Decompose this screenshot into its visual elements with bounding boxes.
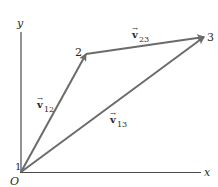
point-1-label: 1 — [15, 161, 21, 172]
vector-subscript: 12 — [44, 105, 54, 114]
vector-label-v13: → v 13 — [109, 110, 127, 129]
point-3-label: 3 — [207, 31, 214, 44]
vector-symbol: v — [109, 114, 117, 125]
vector-symbol: v — [131, 29, 139, 40]
vector-label-v23: → v 23 — [131, 25, 149, 44]
vector-diagram: y x O 1 2 3 → v 12 → v 23 → v 13 — [0, 0, 218, 187]
vector-subscript: 13 — [117, 120, 127, 129]
y-axis-label: y — [16, 17, 24, 30]
origin-label: O — [10, 175, 19, 187]
x-axis-label: x — [204, 166, 211, 179]
vector-subscript: 23 — [139, 35, 149, 44]
point-2-label: 2 — [75, 46, 82, 59]
vector-symbol: v — [36, 99, 44, 110]
vector-label-v12: → v 12 — [36, 95, 54, 114]
